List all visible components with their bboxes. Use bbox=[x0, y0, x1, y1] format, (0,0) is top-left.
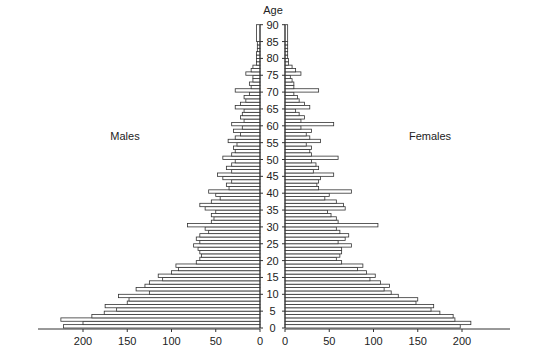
female-bar bbox=[285, 224, 378, 227]
female-bar bbox=[285, 133, 306, 136]
female-bar bbox=[285, 240, 338, 243]
female-bar bbox=[285, 227, 336, 230]
age-tick-label: 25 bbox=[266, 238, 278, 250]
male-bar bbox=[226, 166, 260, 169]
male-bar bbox=[158, 274, 260, 277]
male-bar bbox=[205, 207, 260, 210]
male-x-tick-label: 150 bbox=[118, 335, 136, 347]
male-bar bbox=[200, 250, 260, 253]
male-bar bbox=[220, 197, 260, 200]
male-bar bbox=[64, 325, 260, 328]
female-bar bbox=[285, 136, 310, 139]
female-bar bbox=[285, 139, 320, 142]
female-bar bbox=[285, 247, 342, 250]
female-bar bbox=[285, 89, 319, 92]
female-bar bbox=[285, 288, 384, 291]
male-bar bbox=[246, 99, 260, 102]
female-bar bbox=[285, 126, 301, 129]
male-bar bbox=[256, 52, 260, 55]
female-bar bbox=[285, 220, 338, 223]
male-bar bbox=[232, 153, 260, 156]
age-tick-label: 55 bbox=[266, 137, 278, 149]
male-bar bbox=[216, 193, 260, 196]
female-bar bbox=[285, 170, 313, 173]
age-tick-label: 50 bbox=[266, 154, 278, 166]
female-bar bbox=[285, 109, 296, 112]
female-bar bbox=[285, 304, 434, 307]
age-tick-label: 20 bbox=[266, 255, 278, 267]
male-bar bbox=[218, 173, 260, 176]
male-bar bbox=[117, 308, 260, 311]
female-x-tick-label: 50 bbox=[323, 335, 335, 347]
female-bar bbox=[285, 160, 312, 163]
female-bar bbox=[285, 254, 340, 257]
male-bar bbox=[256, 62, 260, 65]
female-bar bbox=[285, 217, 336, 220]
female-bar bbox=[285, 203, 343, 206]
male-bar bbox=[233, 129, 260, 132]
male-bar bbox=[235, 89, 260, 92]
male-bar bbox=[136, 288, 260, 291]
male-bar bbox=[251, 85, 260, 88]
female-bar bbox=[285, 244, 351, 247]
age-tick-label: 15 bbox=[266, 271, 278, 283]
female-bar bbox=[285, 85, 294, 88]
female-bar bbox=[285, 116, 304, 119]
female-bar bbox=[285, 92, 294, 95]
male-bar bbox=[241, 102, 260, 105]
male-bar bbox=[246, 72, 260, 75]
age-tick-label: 35 bbox=[266, 204, 278, 216]
female-bar bbox=[285, 308, 431, 311]
female-bar bbox=[285, 200, 336, 203]
male-bars bbox=[61, 25, 260, 328]
female-bar bbox=[285, 102, 304, 105]
female-bar bbox=[285, 250, 342, 253]
male-bar bbox=[253, 65, 260, 68]
male-bar bbox=[92, 315, 260, 318]
males-label: Males bbox=[110, 130, 140, 142]
male-bar bbox=[232, 170, 260, 173]
female-bar bbox=[285, 65, 292, 68]
male-bar bbox=[209, 230, 260, 233]
age-axis-ticks: 051015202530354045505560657075808590 bbox=[260, 19, 285, 334]
male-bar bbox=[211, 213, 260, 216]
male-bar bbox=[235, 106, 260, 109]
age-tick-label: 0 bbox=[269, 322, 275, 334]
female-bar bbox=[285, 190, 351, 193]
male-bar bbox=[232, 163, 260, 166]
female-bar bbox=[285, 82, 294, 85]
male-bar bbox=[256, 25, 260, 42]
females-label: Females bbox=[409, 130, 452, 142]
male-bar bbox=[163, 277, 260, 280]
male-bar bbox=[228, 139, 260, 142]
female-bar bbox=[285, 95, 297, 98]
female-x-tick-label: 200 bbox=[453, 335, 471, 347]
female-bar bbox=[285, 143, 306, 146]
male-x-tick-label: 100 bbox=[162, 335, 180, 347]
male-bar bbox=[249, 82, 260, 85]
female-bar bbox=[285, 321, 471, 324]
male-bar bbox=[253, 79, 260, 82]
female-bar bbox=[285, 183, 317, 186]
male-bar bbox=[229, 186, 260, 189]
male-bar bbox=[176, 264, 260, 267]
female-bar bbox=[285, 58, 289, 61]
female-bar bbox=[285, 186, 319, 189]
female-bar bbox=[285, 129, 312, 132]
female-bar bbox=[285, 122, 334, 125]
male-bar bbox=[232, 122, 260, 125]
female-bar bbox=[285, 156, 338, 159]
male-bar bbox=[251, 69, 260, 72]
age-tick-label: 70 bbox=[266, 86, 278, 98]
female-bar bbox=[285, 301, 416, 304]
female-bar bbox=[285, 277, 370, 280]
female-x-tick-label: 0 bbox=[282, 335, 288, 347]
female-bar bbox=[285, 210, 327, 213]
male-bar bbox=[118, 294, 260, 297]
male-bar bbox=[83, 321, 260, 324]
male-bar bbox=[235, 136, 260, 139]
age-tick-label: 90 bbox=[266, 19, 278, 31]
male-bar bbox=[241, 116, 260, 119]
female-x-tick-label: 100 bbox=[364, 335, 382, 347]
female-bar bbox=[285, 267, 358, 270]
